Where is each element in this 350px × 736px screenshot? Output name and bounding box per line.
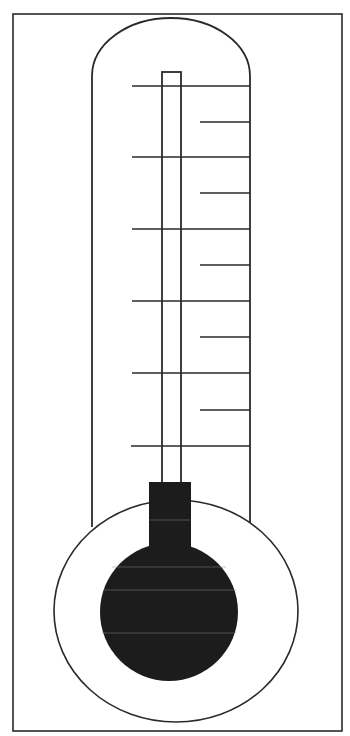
thermometer-tube: [162, 72, 181, 492]
thermometer-body: [92, 18, 250, 527]
scale-ticks: [131, 86, 250, 446]
thermometer-diagram: [0, 0, 350, 736]
